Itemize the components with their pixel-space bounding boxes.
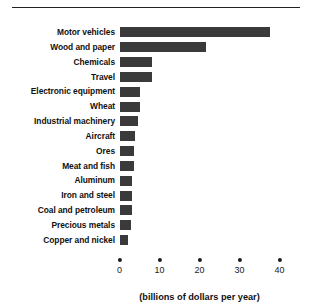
- bar-track: [120, 102, 140, 112]
- bar-row: Iron and steel: [0, 188, 309, 203]
- bar-track: [120, 116, 138, 126]
- bar-row: Aluminum: [0, 173, 309, 188]
- bar: [120, 235, 129, 245]
- bar: [120, 102, 140, 112]
- axis-tick-label: 30: [234, 265, 244, 275]
- bar-row: Motor vehicles: [0, 25, 309, 40]
- category-label: Coal and petroleum: [38, 203, 115, 218]
- axis-tick-label: 0: [117, 265, 122, 275]
- axis-tick-label: 40: [274, 265, 284, 275]
- category-label: Precious metals: [52, 218, 116, 233]
- bar: [120, 57, 152, 67]
- category-label: Aircraft: [86, 129, 115, 144]
- category-label: Aluminum: [74, 173, 115, 188]
- bar: [120, 42, 206, 52]
- bar-track: [120, 72, 152, 82]
- category-label: Copper and nickel: [43, 233, 115, 248]
- axis-tick-label: 10: [154, 265, 164, 275]
- category-label: Chemicals: [74, 55, 115, 70]
- category-label: Industrial machinery: [34, 114, 115, 129]
- axis-tick-dot: [117, 258, 121, 262]
- bar: [120, 146, 134, 156]
- axis-tick-dot: [197, 258, 201, 262]
- bar-row: Travel: [0, 70, 309, 85]
- bar-row: Copper and nickel: [0, 233, 309, 248]
- bar: [120, 205, 132, 215]
- bar: [120, 191, 132, 201]
- bar-track: [120, 235, 129, 245]
- category-label: Meat and fish: [62, 159, 115, 174]
- horizontal-bar-chart: Motor vehicles Wood and paper Chemicals …: [0, 0, 309, 308]
- bar-track: [120, 205, 132, 215]
- bar-row: Meat and fish: [0, 159, 309, 174]
- category-label: Ores: [96, 144, 115, 159]
- bar-track: [120, 220, 132, 230]
- bar: [120, 87, 141, 97]
- axis-tick-dot: [277, 258, 281, 262]
- bar-track: [120, 27, 270, 37]
- category-label: Travel: [91, 70, 115, 85]
- category-label: Iron and steel: [61, 188, 115, 203]
- axis-caption-text: (billions of dollars per year): [139, 292, 259, 302]
- bar: [120, 131, 135, 141]
- bar: [120, 72, 152, 82]
- axis-tick-label: 20: [194, 265, 204, 275]
- bar-row: Chemicals: [0, 55, 309, 70]
- bar-track: [120, 87, 141, 97]
- axis-tick-dot: [237, 258, 241, 262]
- category-label: Electronic equipment: [31, 84, 115, 99]
- bar-row: Coal and petroleum: [0, 203, 309, 218]
- bar-track: [120, 176, 133, 186]
- bar-track: [120, 191, 132, 201]
- bar-track: [120, 131, 135, 141]
- category-label: Wheat: [90, 99, 115, 114]
- bar-track: [120, 42, 206, 52]
- bar-row: Electronic equipment: [0, 84, 309, 99]
- bar: [120, 27, 270, 37]
- bar-row: Wood and paper: [0, 40, 309, 55]
- bar-track: [120, 161, 134, 171]
- bar-row: Industrial machinery: [0, 114, 309, 129]
- bar-track: [120, 146, 134, 156]
- axis-tick-dot: [157, 258, 161, 262]
- bar: [120, 220, 132, 230]
- axis-caption: (billions of dollars per year): [120, 286, 280, 304]
- bar-row: Wheat: [0, 99, 309, 114]
- bar: [120, 161, 134, 171]
- bar-rows: Motor vehicles Wood and paper Chemicals …: [0, 25, 309, 248]
- category-label: Wood and paper: [50, 40, 115, 55]
- category-label: Motor vehicles: [57, 25, 115, 40]
- bar-row: Precious metals: [0, 218, 309, 233]
- bar-row: Ores: [0, 144, 309, 159]
- bar: [120, 176, 133, 186]
- bar-row: Aircraft: [0, 129, 309, 144]
- bar-track: [120, 57, 152, 67]
- bar: [120, 116, 138, 126]
